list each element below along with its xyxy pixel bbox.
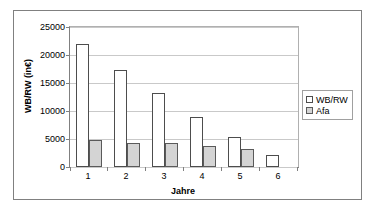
y-axis-tick-label: 20000 xyxy=(40,50,65,60)
x-axis-tick-label: 4 xyxy=(183,171,221,181)
bar-wb-rw-2 xyxy=(114,70,127,167)
y-axis-tick-label: 5000 xyxy=(45,134,65,144)
bar-wb-rw-6 xyxy=(266,155,279,167)
bar-group xyxy=(70,27,108,167)
bar-wb-rw-3 xyxy=(152,93,165,167)
legend-item-label: Afa xyxy=(316,106,330,116)
x-axis-tick-labels: 123456 xyxy=(69,171,297,181)
legend-item[interactable]: WB/RW xyxy=(306,94,348,105)
legend-item[interactable]: Afa xyxy=(306,105,348,116)
bar-group xyxy=(260,27,298,167)
bar-afa-2 xyxy=(127,143,140,167)
legend-swatch-icon xyxy=(306,96,313,103)
x-axis-tick-label: 6 xyxy=(259,171,297,181)
bar-series-layer xyxy=(70,27,298,167)
x-axis-tick-label: 1 xyxy=(69,171,107,181)
bar-group xyxy=(184,27,222,167)
bar-wb-rw-1 xyxy=(76,44,89,167)
chart-frame: WB/RW (in€) 0500010000150002000025000 12… xyxy=(13,10,362,200)
y-axis-tick-label: 25000 xyxy=(40,22,65,32)
y-axis-tick-label: 10000 xyxy=(40,106,65,116)
bar-wb-rw-4 xyxy=(190,117,203,167)
plot-area: 0500010000150002000025000 xyxy=(69,26,299,168)
x-axis-tick-label: 3 xyxy=(145,171,183,181)
y-axis-tick-label: 15000 xyxy=(40,78,65,88)
x-axis-tick-label: 2 xyxy=(107,171,145,181)
bar-afa-4 xyxy=(203,146,216,167)
bar-group xyxy=(146,27,184,167)
x-axis-tick-label: 5 xyxy=(221,171,259,181)
bar-wb-rw-5 xyxy=(228,137,241,167)
bar-afa-5 xyxy=(241,149,254,167)
x-axis-title: Jahre xyxy=(69,186,297,196)
chart-legend: WB/RWAfa xyxy=(302,90,353,120)
bar-group xyxy=(222,27,260,167)
y-axis-tick-label: 0 xyxy=(60,162,65,172)
legend-swatch-icon xyxy=(306,107,313,114)
bar-group xyxy=(108,27,146,167)
bar-afa-1 xyxy=(89,140,102,167)
bar-afa-3 xyxy=(165,143,178,167)
y-axis-title: WB/RW (in€) xyxy=(21,41,35,131)
legend-item-label: WB/RW xyxy=(316,95,348,105)
